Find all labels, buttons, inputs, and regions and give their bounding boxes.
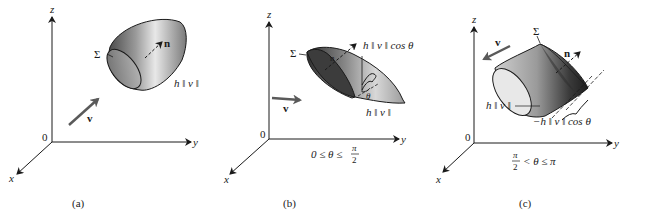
panel-a: z y x 0 v n Σ h ‖ v ‖ (a) xyxy=(8,3,199,210)
condition-left: 0 ≤ θ ≤ xyxy=(311,148,342,160)
panel-b: z y x 0 v n Σ h ‖ v ‖ cos θ θ h ‖ v ‖ 0 … xyxy=(223,8,414,210)
velocity-arrow-icon xyxy=(272,98,300,100)
sigma-label: Σ xyxy=(94,48,100,60)
velocity-label: v xyxy=(283,102,289,114)
condition-right: < θ ≤ π xyxy=(523,155,556,167)
origin-label: 0 xyxy=(42,131,48,143)
normal-label: n xyxy=(164,37,170,49)
x-axis-label: x xyxy=(223,173,229,185)
z-axis-label: z xyxy=(471,13,477,25)
y-axis-label: y xyxy=(400,133,406,145)
sigma-label: Σ xyxy=(533,25,539,37)
condition-den: 2 xyxy=(513,162,518,172)
y-axis-label: y xyxy=(613,137,619,149)
z-axis-label: z xyxy=(266,8,272,20)
origin-label: 0 xyxy=(260,128,266,140)
caption-a: (a) xyxy=(72,197,85,210)
slanted-cylinder-b xyxy=(307,47,405,103)
caption-c: (c) xyxy=(519,197,532,210)
height-label: h ‖ v ‖ xyxy=(366,106,391,118)
velocity-label: v xyxy=(495,36,501,48)
normal-label: n xyxy=(564,47,570,59)
x-axis xyxy=(443,143,474,172)
condition-num: π xyxy=(513,150,518,160)
flux-diagram: z y x 0 v n Σ h ‖ v ‖ (a) z y x 0 v xyxy=(0,0,654,214)
y-axis-label: y xyxy=(192,136,198,148)
height-label: h ‖ v ‖ xyxy=(174,77,199,89)
condition-b: 0 ≤ θ ≤ π 2 xyxy=(311,143,359,165)
origin-label: 0 xyxy=(465,131,471,143)
z-axis-label: z xyxy=(49,3,55,15)
x-axis-label: x xyxy=(435,173,441,185)
angle-label: θ xyxy=(366,91,371,101)
velocity-arrow-icon xyxy=(69,99,98,125)
panel-c: z y x 0 v n Σ h ‖ v ‖ −h ‖ v ‖ cos θ π 2 xyxy=(435,13,619,210)
condition-c: π 2 < θ ≤ π xyxy=(512,150,556,172)
sigma-label: Σ xyxy=(290,47,296,59)
x-axis xyxy=(17,142,52,174)
condition-den: 2 xyxy=(352,155,357,165)
projected-height-label: −h ‖ v ‖ cos θ xyxy=(533,115,591,127)
condition-num: π xyxy=(352,143,357,153)
normal-label: n xyxy=(330,53,335,63)
projected-height-label: h ‖ v ‖ cos θ xyxy=(363,39,414,51)
height-label: h ‖ v ‖ xyxy=(486,99,511,111)
x-axis-label: x xyxy=(8,172,14,184)
x-axis xyxy=(230,139,269,174)
velocity-label: v xyxy=(87,112,93,124)
caption-b: (b) xyxy=(283,197,296,210)
